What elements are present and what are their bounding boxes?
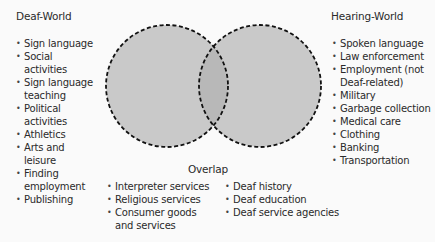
list-item: Publishing: [16, 193, 96, 206]
list-item: Employment (not Deaf-related): [332, 63, 435, 89]
deaf-world-title: Deaf-World: [16, 10, 72, 22]
list-item: Deaf service agencies: [225, 206, 345, 219]
list-item: Deaf history: [225, 180, 345, 193]
list-item: Political activities: [16, 102, 96, 128]
overlap-list-col1: Interpreter services Religious services …: [107, 180, 217, 232]
list-item: Consumer goods and services: [107, 206, 197, 232]
list-item: Sign language: [16, 37, 96, 50]
hearing-world-title: Hearing-World: [331, 10, 403, 22]
list-item: Athletics: [16, 128, 96, 141]
list-item: Banking: [332, 141, 435, 154]
list-item: Social activities: [16, 50, 96, 76]
deaf-world-list: Sign language Social activities Sign lan…: [16, 37, 96, 206]
list-item: Deaf education: [225, 193, 345, 206]
list-item: Garbage collection: [332, 102, 435, 115]
list-item: Transportation: [332, 154, 435, 167]
list-item: Sign language teaching: [16, 76, 96, 102]
overlap-list-col2: Deaf history Deaf education Deaf service…: [225, 180, 345, 219]
list-item: Arts and leisure: [16, 141, 96, 167]
list-item: Spoken language: [332, 37, 435, 50]
hearing-world-list: Spoken language Law enforcement Employme…: [332, 37, 435, 167]
list-item: Medical care: [332, 115, 435, 128]
list-item: Finding employment: [16, 167, 96, 193]
list-item: Military: [332, 89, 435, 102]
list-item: Clothing: [332, 128, 435, 141]
list-item: Law enforcement: [332, 50, 435, 63]
list-item: Religious services: [107, 193, 217, 206]
overlap-title: Overlap: [188, 163, 228, 175]
list-item: Interpreter services: [107, 180, 217, 193]
